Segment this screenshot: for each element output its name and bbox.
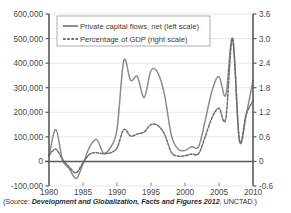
source-caption: (Source: Development and Globalization, … <box>3 197 257 206</box>
series-line <box>49 38 253 179</box>
chart-canvas: -100,0000100,000200,000300,000400,000500… <box>0 0 291 213</box>
right-tick-label: 2.4 <box>259 59 271 68</box>
x-tick-label: 1980 <box>40 188 59 197</box>
source-prefix: (Source: <box>3 197 32 206</box>
right-tick-label: 3.0 <box>259 35 271 44</box>
plot-lines <box>49 38 253 179</box>
right-tick-label: 0 <box>259 157 264 166</box>
left-tick-label: 500,000 <box>13 35 43 44</box>
left-tick-label: 0 <box>38 157 43 166</box>
legend-label[interactable]: Private capital flows, net (left scale) <box>80 22 199 31</box>
left-tick-label: 300,000 <box>13 84 43 93</box>
x-tick-label: 2010 <box>244 188 263 197</box>
x-tick-label: 2005 <box>210 188 229 197</box>
source-suffix: , UNCTAD.) <box>220 197 257 206</box>
x-tick-label: 1985 <box>74 188 93 197</box>
x-tick-label: 2000 <box>176 188 195 197</box>
figure-container: -100,0000100,000200,000300,000400,000500… <box>0 0 291 213</box>
left-tick-label: -100,000 <box>11 182 44 191</box>
right-tick-label: 1.2 <box>259 108 271 117</box>
left-tick-label: 100,000 <box>13 133 43 142</box>
right-tick-label: 3.6 <box>259 10 271 19</box>
legend-label[interactable]: Percentage of GDP (right scale) <box>80 35 188 44</box>
source-title: Development and Globalization, Facts and… <box>32 197 220 206</box>
x-tick-label: 1995 <box>142 188 161 197</box>
left-tick-label: 600,000 <box>13 10 43 19</box>
x-tick-label: 1990 <box>108 188 127 197</box>
left-tick-label: 200,000 <box>13 108 43 117</box>
right-tick-label: 1.8 <box>259 84 271 93</box>
right-tick-label: 0.6 <box>259 133 271 142</box>
series-line <box>49 38 253 173</box>
legend-box[interactable]: Private capital flows, net (left scale)P… <box>57 16 210 46</box>
left-tick-label: 400,000 <box>13 59 43 68</box>
